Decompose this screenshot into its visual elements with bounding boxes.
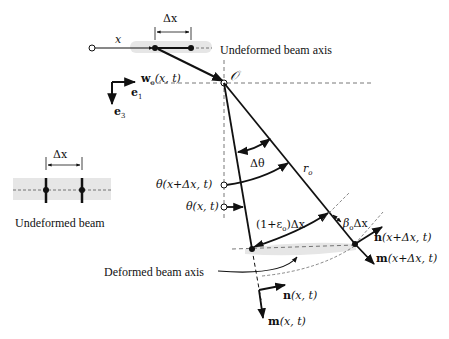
origin-label: 𝒪 (230, 69, 238, 82)
dtheta-label: Δθ (250, 158, 265, 169)
x-label: x (115, 34, 121, 45)
x-origin-marker (89, 45, 95, 51)
shear-angle-label: βoΔx (343, 218, 368, 232)
e1-label: e1 (131, 87, 142, 101)
displacement-label: wo(x, t) (141, 73, 181, 87)
deformed-axis-label: Deformed beam axis (104, 266, 204, 278)
theta-x-label: θ(x, t) (186, 201, 219, 212)
n-left-label: n(x, t) (283, 290, 317, 301)
arc-length-label: (1+εo)Δx (256, 219, 305, 233)
dx-top-label: Δx (163, 13, 177, 24)
n-right-label: n(x+Δx, t) (374, 232, 432, 243)
m-right-label: m(x+Δx, t) (376, 253, 437, 264)
beam-kinematics-diagram: x Δx Undeformed beam axis wo(x, t) 𝒪 e1 … (0, 0, 449, 339)
radius-label: ro (303, 163, 312, 177)
undeformed-axis-label: Undeformed beam axis (220, 44, 332, 56)
m-left-label: m(x, t) (268, 316, 306, 327)
undeformed-beam-label: Undeformed beam (15, 217, 105, 229)
theta-x-dx-label: θ(x+Δx, t) (156, 179, 212, 190)
e3-label: e3 (114, 106, 125, 120)
dx-left-label: Δx (53, 149, 67, 160)
